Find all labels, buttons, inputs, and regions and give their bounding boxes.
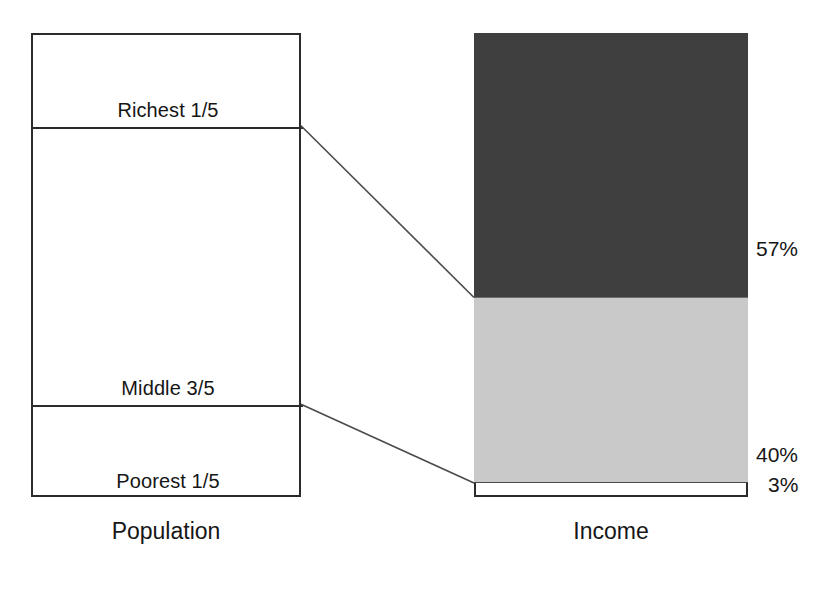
- axis-caption-income: Income: [474, 518, 748, 545]
- population-stacked-box: Richest 1/5 Middle 3/5 Poorest 1/5: [31, 33, 301, 497]
- income-segment-richest: [474, 33, 748, 297]
- axis-caption-population: Population: [31, 518, 301, 545]
- population-segment-label-middle: Middle 3/5: [33, 377, 303, 400]
- income-stacked-bar: [474, 33, 748, 497]
- income-percent-label-poorest: 3%: [768, 473, 798, 497]
- population-segment-label-richest: Richest 1/5: [33, 99, 303, 122]
- income-segment-poorest: [474, 483, 748, 497]
- income-distribution-chart: Richest 1/5 Middle 3/5 Poorest 1/5 57% 4…: [0, 0, 838, 592]
- income-percent-label-richest: 57%: [756, 237, 798, 261]
- connector-line-richest-middle: [301, 126, 474, 298]
- income-percent-label-middle: 40%: [756, 443, 798, 467]
- population-divider-richest-middle: [33, 127, 303, 129]
- connector-line-middle-poorest: [301, 404, 474, 483]
- population-divider-middle-poorest: [33, 405, 303, 407]
- population-segment-label-poorest: Poorest 1/5: [33, 470, 303, 493]
- income-segment-middle: [474, 297, 748, 483]
